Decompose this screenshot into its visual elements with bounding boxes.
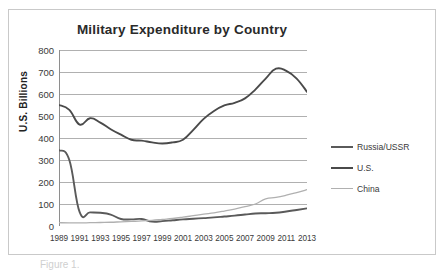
x-tick-label: 1989 (50, 234, 68, 243)
x-tick-label: 2003 (195, 234, 213, 243)
legend-line-icon (331, 188, 353, 189)
legend-line-icon (331, 146, 353, 148)
x-tick-label: 1999 (153, 234, 171, 243)
legend-item[interactable]: China (331, 178, 443, 199)
y-tick-label: 500 (38, 111, 54, 122)
x-tick-label: 1991 (71, 234, 89, 243)
x-tick-label: 2009 (257, 234, 275, 243)
chart-frame: Military Expenditure by Country U.S. Bil… (8, 9, 436, 255)
x-tick-label: 2005 (215, 234, 233, 243)
y-tick-label: 100 (38, 199, 54, 210)
chart-plot-svg (59, 50, 307, 226)
y-tick-label: 400 (38, 133, 54, 144)
y-tick-label: 200 (38, 177, 54, 188)
legend-item-label: Russia/USSR (357, 142, 410, 152)
series-line (59, 150, 307, 222)
y-tick-label: 600 (38, 89, 54, 100)
x-tick-label: 2013 (298, 234, 316, 243)
y-tick-label: 0 (49, 221, 54, 232)
x-tick-label: 1995 (112, 234, 130, 243)
figure-caption: Figure 1. (40, 259, 400, 273)
y-tick-label: 300 (38, 155, 54, 166)
x-tick-label: 1993 (91, 234, 109, 243)
legend-item[interactable]: U.S. (331, 157, 443, 178)
legend-item-label: U.S. (357, 163, 374, 173)
figure-container: Military Expenditure by Country U.S. Bil… (0, 0, 445, 279)
plot-wrapper: 0100200300400500600700800 19891991199319… (59, 50, 307, 226)
series-line (59, 68, 307, 143)
y-axis-label: U.S. Billions (18, 42, 29, 162)
plot-area (59, 50, 307, 226)
x-tick-label: 2007 (236, 234, 254, 243)
legend-line-icon (331, 167, 353, 169)
x-tick-label: 1997 (133, 234, 151, 243)
chart-legend: Russia/USSRU.S.China (331, 136, 443, 199)
y-tick-label: 700 (38, 67, 54, 78)
x-tick-label: 2011 (278, 234, 296, 243)
legend-item-label: China (357, 184, 379, 194)
y-tick-label: 800 (38, 45, 54, 56)
series-line (59, 190, 307, 223)
legend-item[interactable]: Russia/USSR (331, 136, 443, 157)
x-tick-label: 2001 (174, 234, 192, 243)
chart-title: Military Expenditure by Country (9, 22, 435, 37)
